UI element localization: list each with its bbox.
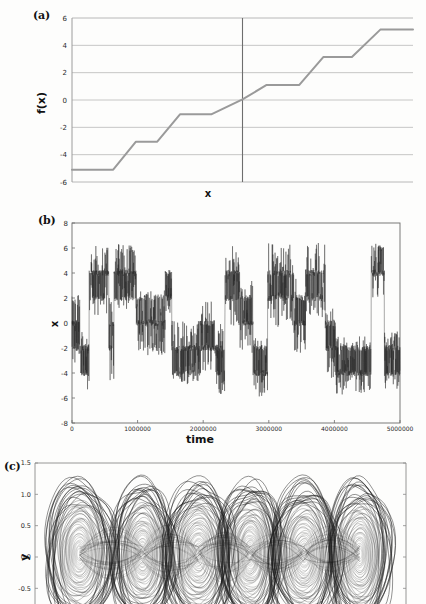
panel-b-xtick: 3000000 [255, 425, 282, 432]
panel-b-xtick: 5000000 [387, 425, 414, 432]
panel-a-ytick: -4 [60, 151, 68, 159]
panel-b-ytick: 0 [64, 320, 68, 328]
panel-c-label: (c) [4, 460, 21, 473]
panel-a-ytick: -2 [60, 124, 67, 132]
panel-c-attractor: (c) y 1.51.00.50.0-0.5 [0, 451, 426, 604]
panel-c-ytick: 1.0 [21, 491, 31, 499]
panel-c-ylabel: y [18, 547, 31, 569]
panel-b-xtick: 0 [70, 425, 74, 432]
panel-b-xtick: 2000000 [190, 425, 217, 432]
attractor-orbit [232, 515, 268, 598]
panel-c-ytick: -0.5 [18, 585, 31, 593]
panel-b-xlabel: time [170, 433, 230, 446]
panel-b-xtick: 1000000 [124, 425, 151, 432]
panel-b-timeseries-trace [72, 243, 400, 396]
panel-b-ylabel: x [49, 313, 61, 335]
panel-a-ytick: 0 [63, 97, 67, 105]
panel-b-xtick: 4000000 [321, 425, 348, 432]
panel-b-ytick: -4 [61, 370, 69, 378]
figure-container: (a) f(x) x 6420-2-4-6 (b) x time 86420-2… [0, 0, 426, 604]
panel-a-xlabel: x [196, 188, 220, 199]
panel-a-ytick: 6 [63, 15, 68, 23]
attractor-orbit [352, 534, 369, 573]
panel-b-ytick: 6 [64, 245, 69, 253]
panel-a-ylabel: f(x) [35, 83, 49, 123]
panel-b-ytick: 2 [64, 295, 68, 303]
panel-b-timeseries: (b) x time 86420-2-4-6-80100000020000003… [0, 205, 426, 451]
panel-c-ytick: 0.5 [21, 522, 31, 530]
panel-c-ytick: 1.5 [21, 459, 31, 467]
panel-b-label: (b) [38, 214, 56, 227]
panel-b-ytick: -8 [61, 420, 68, 428]
panel-a-ytick: 4 [63, 42, 68, 50]
panel-c-plot: 1.51.00.50.0-0.5 [0, 451, 426, 604]
panel-c-scroll-cell [325, 476, 396, 604]
panel-b-plot: 86420-2-4-6-8010000002000000300000040000… [0, 205, 426, 451]
panel-c-scroll-cell [109, 475, 180, 604]
panel-c-scroll-cell [45, 476, 120, 604]
panel-b-ytick: -6 [61, 395, 69, 403]
attractor-orbit [73, 540, 86, 569]
panel-b-ytick: 8 [64, 220, 68, 228]
panel-b-ytick: -2 [61, 345, 68, 353]
panel-a-ytick: 2 [63, 69, 67, 77]
panel-a-staircase: (a) f(x) x 6420-2-4-6 [0, 0, 426, 205]
panel-a-ytick: -6 [60, 179, 68, 187]
attractor-orbit [287, 517, 322, 591]
panel-a-plot: 6420-2-4-6 [0, 0, 426, 205]
panel-b-ytick: 4 [64, 270, 69, 278]
panel-a-label: (a) [33, 9, 50, 22]
